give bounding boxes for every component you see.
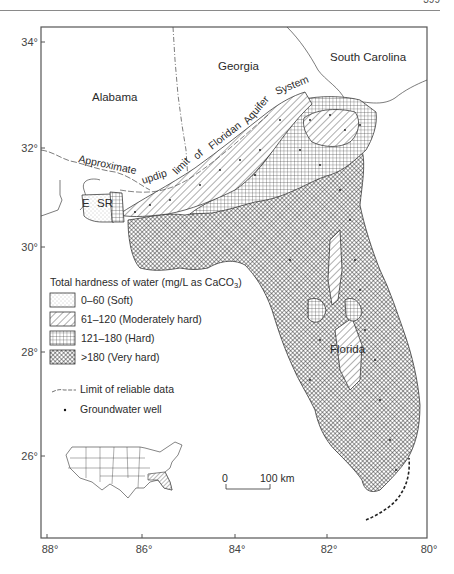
svg-text:updip: updip xyxy=(140,167,168,186)
legend-swatch-very-hard xyxy=(50,350,75,364)
lon-tick-82: 82° xyxy=(321,543,338,555)
svg-text:of: of xyxy=(191,147,205,162)
florida-hardness-map: 34° 32° 30° 28° 26° 88° 86° 84° 82° 80° xyxy=(0,0,454,574)
legend-label-soft: 0–60 (Soft) xyxy=(81,294,133,306)
legend-swatch-soft xyxy=(50,293,75,307)
legend-label-well: Groundwater well xyxy=(80,403,162,415)
label-florida: Florida xyxy=(330,343,366,355)
legend-label-very-hard: >180 (Very hard) xyxy=(81,351,160,363)
svg-text:100 km: 100 km xyxy=(260,472,295,484)
lon-tick-88: 88° xyxy=(42,543,59,555)
legend-title: Total hardness of water (mg/L as CaCO3) xyxy=(50,276,242,290)
lat-tick-32: 32° xyxy=(21,142,38,154)
legend-line-limit xyxy=(52,390,76,392)
legend-swatch-hard xyxy=(50,331,75,345)
scale-bar: 0 100 km xyxy=(222,472,295,489)
longitude-axis: 88° 86° 84° 82° 80° xyxy=(42,534,438,555)
lon-tick-86: 86° xyxy=(136,543,153,555)
label-south-carolina: South Carolina xyxy=(330,51,407,63)
label-alabama: Alabama xyxy=(92,91,138,103)
label-e: E xyxy=(82,197,90,209)
lat-tick-30: 30° xyxy=(21,241,38,253)
legend-label-limit: Limit of reliable data xyxy=(80,383,174,395)
legend-label-moderate: 61–120 (Moderately hard) xyxy=(81,313,202,325)
svg-text:Approximate: Approximate xyxy=(78,152,138,176)
lon-tick-80: 80° xyxy=(421,543,438,555)
lat-tick-34: 34° xyxy=(21,36,38,48)
lon-tick-84: 84° xyxy=(229,543,246,555)
hardness-regions xyxy=(82,92,420,492)
legend-swatch-moderate xyxy=(50,312,75,326)
lat-tick-26: 26° xyxy=(21,450,38,462)
label-georgia: Georgia xyxy=(218,60,260,72)
svg-text:0: 0 xyxy=(222,472,228,484)
legend: Total hardness of water (mg/L as CaCO3) … xyxy=(50,276,242,415)
legend-well-dot xyxy=(64,409,66,411)
legend-label-hard: 121–180 (Hard) xyxy=(81,332,155,344)
us-inset-map xyxy=(66,442,182,498)
lat-tick-28: 28° xyxy=(21,346,38,358)
label-sr: SR xyxy=(97,197,113,209)
